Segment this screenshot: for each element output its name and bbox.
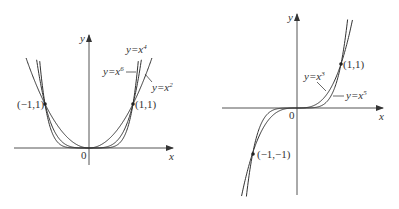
label-y-x3: y=x3 (303, 70, 325, 82)
right-point-label-pos: (1,1) (343, 58, 364, 71)
left-point-label-neg: (−1,1) (17, 98, 45, 111)
power-function-graphs: (−1,1) (1,1) y x 0 y=x4 y=x6 y=x2 (1,1) … (0, 0, 399, 209)
right-origin-label: 0 (289, 109, 295, 121)
label-y-x6: y=x6 (102, 65, 124, 77)
label-y-x5: y=x5 (345, 89, 367, 101)
right-point-label-neg: (−1,−1) (257, 148, 291, 161)
label-y-x4: y=x4 (125, 43, 147, 55)
right-y-label: y (287, 11, 293, 23)
right-graph: (1,1) (−1,−1) y x 0 y=x3 y=x5 (222, 11, 384, 197)
left-origin-label: 0 (81, 149, 87, 161)
leader-x2 (145, 74, 152, 82)
left-x-label: x (168, 150, 174, 162)
left-point-label-pos: (1,1) (135, 98, 156, 111)
label-y-x2: y=x2 (151, 81, 173, 93)
left-graph: (−1,1) (1,1) y x 0 y=x4 y=x6 y=x2 (14, 32, 174, 165)
leader-x3 (317, 82, 326, 91)
right-point-neg1-neg1 (251, 152, 255, 156)
left-y-label: y (79, 32, 85, 44)
right-x-label: x (378, 110, 384, 122)
